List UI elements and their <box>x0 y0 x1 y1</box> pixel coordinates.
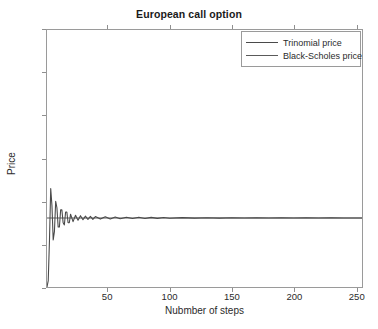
x-tick-mark-top <box>357 25 358 29</box>
figure-canvas: European call option 1.41.61.822.22.42.6… <box>0 0 378 329</box>
x-tick-label: 150 <box>224 291 240 302</box>
x-tick-label: 250 <box>349 291 365 302</box>
y-tick-mark <box>42 29 46 30</box>
x-tick-label: 50 <box>102 291 113 302</box>
y-tick-mark <box>42 288 46 289</box>
x-tick-mark-top <box>294 25 295 29</box>
y-tick-mark <box>42 202 46 203</box>
chart-title: European call option <box>0 8 378 20</box>
y-tick-mark <box>42 115 46 116</box>
x-tick-mark-top <box>232 25 233 29</box>
trinomial-line <box>47 188 362 287</box>
x-axis-label: Nubmber of steps <box>46 305 363 316</box>
y-tick-mark <box>42 72 46 73</box>
x-tick-mark-top <box>107 25 108 29</box>
x-tick-label: 200 <box>286 291 302 302</box>
legend-swatch-black-scholes <box>246 55 278 56</box>
y-tick-mark <box>42 159 46 160</box>
plot-svg <box>47 30 362 287</box>
legend-swatch-trinomial <box>246 42 278 43</box>
y-axis-label: Price <box>6 134 17 194</box>
y-tick-mark <box>42 245 46 246</box>
plot-area <box>46 29 363 288</box>
x-tick-label: 100 <box>162 291 178 302</box>
legend-label-black-scholes: Black-Scholes price <box>283 51 362 61</box>
x-tick-mark-top <box>170 25 171 29</box>
legend-item-trinomial: Trinomial price <box>246 36 355 49</box>
legend-item-black-scholes: Black-Scholes price <box>246 49 355 62</box>
legend-box: Trinomial price Black-Scholes price <box>241 31 361 67</box>
legend-label-trinomial: Trinomial price <box>283 38 342 48</box>
